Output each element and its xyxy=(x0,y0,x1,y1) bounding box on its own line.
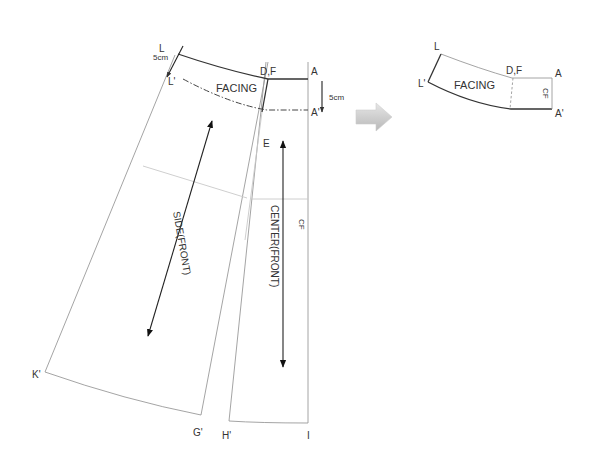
center-side-seam xyxy=(245,112,262,240)
cf-label: CF xyxy=(297,219,306,230)
point-A-prime: A' xyxy=(311,107,320,118)
left-pattern: L L' 5cm D,F A A' 5cm E FACING K' G' H' … xyxy=(32,43,344,441)
point-E: E xyxy=(263,138,270,149)
point-G-prime: G' xyxy=(193,427,203,438)
side-front-label: SIDE(FRONT) xyxy=(171,210,193,275)
measure-right-label: 5cm xyxy=(329,93,344,102)
right-facing-piece: L L' D,F A A' FACING CF xyxy=(418,41,564,119)
point-L-prime: L' xyxy=(418,78,426,89)
side-panel-outline xyxy=(45,55,268,415)
measure-left-label: 5cm xyxy=(153,53,168,62)
point-A: A xyxy=(555,68,562,79)
cf-label: CF xyxy=(541,88,550,99)
facing-top-edge xyxy=(441,54,552,78)
facing-label: FACING xyxy=(454,79,495,91)
center-panel-outline xyxy=(229,62,308,423)
point-DF: D,F xyxy=(260,66,276,77)
point-A-prime: A' xyxy=(555,108,564,119)
point-L: L xyxy=(434,41,440,52)
point-I: I xyxy=(307,430,310,441)
point-DF: D,F xyxy=(506,65,522,76)
side-hip-guideline xyxy=(143,166,247,198)
facing-dart-line xyxy=(510,78,513,109)
point-L-prime: L' xyxy=(168,76,176,87)
point-A: A xyxy=(311,66,318,77)
measure-left-arrow xyxy=(167,46,183,77)
facing-left-edge xyxy=(428,54,441,82)
point-H-prime: H' xyxy=(222,430,231,441)
facing-label: FACING xyxy=(216,82,257,94)
right-arrow-icon xyxy=(356,103,392,131)
center-front-label: CENTER(FRONT) xyxy=(269,205,280,287)
point-K-prime: K' xyxy=(32,369,41,380)
waistline xyxy=(178,54,308,79)
pattern-diagram: L L' 5cm D,F A A' 5cm E FACING K' G' H' … xyxy=(0,0,597,472)
